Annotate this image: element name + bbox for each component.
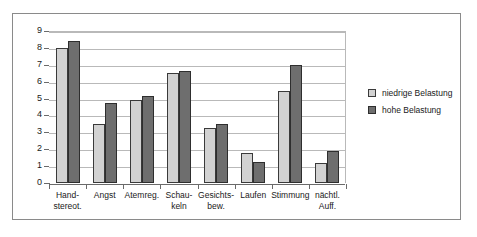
x-axis-tick	[198, 184, 199, 189]
x-axis-tick	[123, 184, 124, 189]
y-axis-tick	[44, 132, 49, 133]
chart-legend: niedrige Belastunghohe Belastung	[368, 86, 460, 120]
bar	[105, 103, 117, 183]
y-axis-labels: 9876543210	[13, 14, 42, 204]
bar-group	[278, 31, 302, 183]
legend-item: hohe Belastung	[368, 103, 460, 117]
legend-swatch-icon	[368, 106, 376, 114]
bar	[204, 128, 216, 183]
y-axis-tick	[44, 31, 49, 32]
bar	[290, 65, 302, 183]
x-axis-category-label: nächtl.Auff.	[303, 190, 352, 212]
y-axis-tick	[44, 183, 49, 184]
y-axis-tick-label: 8	[18, 43, 42, 52]
x-axis-tick	[346, 184, 347, 189]
y-axis-tick	[44, 166, 49, 167]
legend-item-label: hohe Belastung	[382, 105, 441, 115]
x-axis-tick-label: bew.	[192, 201, 241, 212]
bar-group	[167, 31, 191, 183]
y-axis-tick-label: 7	[18, 60, 42, 69]
y-axis-tick	[44, 65, 49, 66]
bar	[142, 96, 154, 183]
bar	[130, 100, 142, 183]
bar	[93, 124, 105, 183]
bar-group	[241, 31, 265, 183]
plot-area	[49, 31, 346, 183]
legend-item-label: niedrige Belastung	[382, 88, 452, 98]
y-axis-tick-label: 4	[18, 110, 42, 119]
y-axis-tick-label: 5	[18, 94, 42, 103]
y-axis-tick-label: 9	[18, 26, 42, 35]
x-axis-tick	[235, 184, 236, 189]
x-axis-tick	[272, 184, 273, 189]
bar	[56, 48, 68, 183]
y-axis-tick-label: 3	[18, 127, 42, 136]
bar	[327, 151, 339, 183]
y-axis-tick	[44, 82, 49, 83]
bar	[241, 153, 253, 183]
bar	[68, 41, 80, 183]
bar-group	[204, 31, 228, 183]
y-axis-tick-label: 2	[18, 144, 42, 153]
bar	[253, 162, 265, 183]
legend-swatch-icon	[368, 89, 376, 97]
bar	[179, 71, 191, 183]
chart-frame: 9876543210 Hand-stereot.AngstAtemreg.Sch…	[12, 13, 461, 220]
bar	[278, 91, 290, 183]
y-axis-tick-label: 0	[18, 178, 42, 187]
y-axis-tick	[44, 149, 49, 150]
y-axis-tick	[44, 48, 49, 49]
y-axis-tick-label: 1	[18, 161, 42, 170]
x-axis-tick	[86, 184, 87, 189]
bar-group	[56, 31, 80, 183]
y-axis-tick	[44, 115, 49, 116]
x-axis-tick	[160, 184, 161, 189]
x-axis-tick	[309, 184, 310, 189]
x-axis-tick-label: Auff.	[303, 201, 352, 212]
bar	[216, 124, 228, 183]
x-axis-tick	[49, 184, 50, 189]
bar	[315, 163, 327, 183]
chart-figure: 9876543210 Hand-stereot.AngstAtemreg.Sch…	[0, 0, 477, 237]
x-axis-tick-label: stereot.	[43, 201, 92, 212]
legend-item: niedrige Belastung	[368, 86, 460, 100]
bar-group	[130, 31, 154, 183]
bar	[167, 73, 179, 183]
x-axis-tick-label: nächtl.	[303, 190, 352, 201]
y-axis-tick-label: 6	[18, 77, 42, 86]
bar-group	[93, 31, 117, 183]
y-axis-tick	[44, 99, 49, 100]
bar-group	[315, 31, 339, 183]
